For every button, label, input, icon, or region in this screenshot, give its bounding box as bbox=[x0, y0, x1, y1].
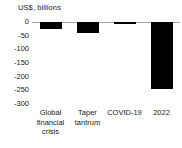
bar bbox=[114, 22, 136, 24]
bar-chart: US$, billions 0-50-100-150-200-250-300 G… bbox=[0, 0, 182, 148]
x-axis-category-labels: GlobalfinancialcrisisTapertantrumCOVID-1… bbox=[32, 108, 180, 148]
y-axis-tick-labels: 0-50-100-150-200-250-300 bbox=[0, 0, 32, 148]
y-axis-tick-label: -100 bbox=[14, 45, 29, 53]
bar bbox=[40, 22, 62, 29]
x-axis-category-label-line: Global bbox=[32, 108, 69, 118]
bar bbox=[77, 22, 99, 33]
y-axis-tick-label: 0 bbox=[25, 18, 29, 26]
y-axis-tick-label: -50 bbox=[18, 32, 29, 40]
x-axis-category-label: 2022 bbox=[143, 108, 180, 118]
x-axis-category-label-line: Taper bbox=[69, 108, 106, 118]
x-axis-category-label-line: financial bbox=[32, 118, 69, 128]
x-axis-category-label-line: tantrum bbox=[69, 118, 106, 128]
x-axis-category-label: COVID-19 bbox=[106, 108, 143, 118]
x-axis-category-label-line: crisis bbox=[32, 127, 69, 137]
bar bbox=[151, 22, 173, 89]
x-axis-category-label: Tapertantrum bbox=[69, 108, 106, 127]
plot-area bbox=[32, 22, 180, 104]
x-axis-category-label-line: 2022 bbox=[143, 108, 180, 118]
x-axis-category-label: Globalfinancialcrisis bbox=[32, 108, 69, 137]
y-axis-tick-label: -150 bbox=[14, 59, 29, 67]
y-axis-tick-label: -200 bbox=[14, 73, 29, 81]
y-axis-tick-label: -300 bbox=[14, 100, 29, 108]
y-axis-tick-label: -250 bbox=[14, 86, 29, 94]
x-axis-category-label-line: COVID-19 bbox=[106, 108, 143, 118]
